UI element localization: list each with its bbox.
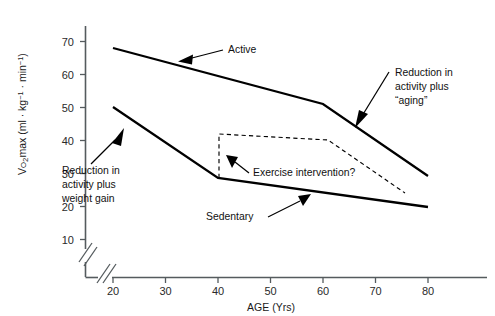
y-tick-label: 50 — [62, 102, 74, 114]
x-axis-title: AGE (Yrs) — [247, 301, 295, 313]
annotation-label-active: Active — [228, 44, 257, 55]
y-axis-title-sup-1: −1 — [16, 91, 25, 99]
y-axis-title-sup-2: −1 — [16, 57, 25, 65]
x-tick-label: 80 — [422, 285, 434, 297]
annotation-label-reduction-aging-line1: Reduction in — [395, 67, 453, 78]
x-tick-label: 50 — [264, 285, 276, 297]
annotation-label-reduction-aging-line3: “aging” — [395, 95, 428, 106]
annotation-label-weight-gain-line3: weight gain — [61, 193, 115, 204]
y-axis-title-max: max (ml · kg — [16, 100, 28, 158]
y-tick-label: 60 — [62, 69, 74, 81]
y-axis-title-close: ) — [16, 53, 28, 57]
y-axis-title-v: V — [16, 168, 28, 175]
annotation-label-exercise-intervention: Exercise intervention? — [253, 167, 355, 178]
annotation-label-reduction-aging-line2: activity plus — [395, 81, 449, 92]
x-tick-label: 20 — [107, 285, 119, 297]
chart-svg: 70 60 50 40 30 20 10 VO2max (ml · kg−1 ·… — [0, 0, 495, 316]
x-tick-label: 40 — [212, 285, 224, 297]
x-tick-label: 70 — [369, 285, 381, 297]
annotation-label-weight-gain-line2: activity plus — [62, 179, 116, 190]
y-tick-label: 70 — [62, 36, 74, 48]
chart-figure: 70 60 50 40 30 20 10 VO2max (ml · kg−1 ·… — [0, 0, 495, 316]
x-tick-label: 30 — [159, 285, 171, 297]
y-axis-title-mid: · min — [16, 65, 28, 91]
y-tick-label: 10 — [62, 234, 74, 246]
x-tick-label: 60 — [317, 285, 329, 297]
annotation-label-sedentary: Sedentary — [206, 211, 254, 222]
y-tick-label: 40 — [62, 135, 74, 147]
annotation-label-weight-gain-line1: Reduction in — [62, 165, 120, 176]
